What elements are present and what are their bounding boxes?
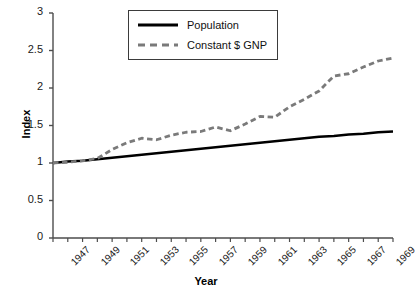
legend-item-gnp: Constant $ GNP	[137, 37, 267, 53]
legend-item-population: Population	[137, 17, 239, 33]
data-series-layer	[53, 58, 393, 163]
legend-line-dashed-icon	[137, 39, 179, 51]
legend-line-solid-icon	[137, 19, 179, 31]
legend: Population Constant $ GNP	[128, 10, 278, 60]
legend-label-gnp: Constant $ GNP	[187, 39, 267, 51]
legend-label-population: Population	[187, 19, 239, 31]
x-axis-title: Year	[0, 275, 412, 287]
series-line-population	[53, 132, 393, 164]
